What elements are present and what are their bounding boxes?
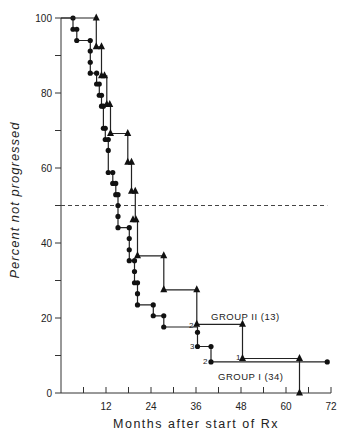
circle-marker xyxy=(103,126,108,131)
circle-marker xyxy=(115,214,120,219)
x-axis-title: Months after start of Rx xyxy=(113,417,279,431)
triangle-marker xyxy=(296,354,303,361)
circle-marker xyxy=(135,291,140,296)
y-tick-label: 40 xyxy=(41,238,53,249)
circle-marker xyxy=(115,225,120,230)
axes: 020406080100122436486072 xyxy=(35,13,337,413)
circle-marker xyxy=(88,48,93,53)
triangle-marker xyxy=(193,320,200,327)
circle-marker xyxy=(74,38,79,43)
triangle-marker xyxy=(193,285,200,292)
circle-marker xyxy=(106,137,111,142)
x-tick-label: 72 xyxy=(325,401,337,412)
circle-marker xyxy=(106,170,111,175)
y-axis-title: Percent not progressed xyxy=(7,121,22,278)
circle-marker xyxy=(195,330,200,335)
circle-marker xyxy=(115,192,120,197)
censor-count-3: 3 xyxy=(190,342,195,351)
circle-marker xyxy=(127,247,132,252)
circle-marker xyxy=(325,359,330,364)
x-tick-label: 48 xyxy=(235,401,247,412)
triangle-marker xyxy=(93,13,100,20)
censor-count-2: 2 xyxy=(189,321,194,330)
circle-marker xyxy=(135,280,140,285)
circle-marker xyxy=(151,313,156,318)
survival-curves xyxy=(61,13,330,395)
circle-marker xyxy=(106,148,111,153)
circle-marker xyxy=(110,170,115,175)
circle-marker xyxy=(132,269,137,274)
circle-marker xyxy=(88,38,93,43)
circle-marker xyxy=(94,71,99,76)
censor-count-1: 1 xyxy=(236,353,241,362)
group-ii-label: GROUP II (13) xyxy=(211,311,280,322)
circle-marker xyxy=(132,258,137,263)
circle-marker xyxy=(88,60,93,65)
y-tick-label: 20 xyxy=(41,313,53,324)
triangle-marker xyxy=(124,129,131,136)
circle-marker xyxy=(208,344,213,349)
circle-marker xyxy=(88,71,93,76)
y-tick-label: 0 xyxy=(46,388,52,399)
circle-marker xyxy=(115,203,120,208)
x-tick-label: 12 xyxy=(100,401,112,412)
circle-marker xyxy=(113,181,118,186)
triangle-marker xyxy=(107,129,114,136)
y-tick-label: 80 xyxy=(41,88,53,99)
triangle-marker xyxy=(296,388,303,395)
triangle-marker xyxy=(98,42,105,49)
circle-marker xyxy=(127,236,132,241)
circle-marker xyxy=(74,27,79,32)
circle-marker xyxy=(127,258,132,263)
x-tick-label: 60 xyxy=(280,401,292,412)
circle-marker xyxy=(127,225,132,230)
circle-marker xyxy=(135,302,140,307)
group-i-label: GROUP I (34) xyxy=(218,371,283,382)
y-tick-label: 100 xyxy=(35,13,52,24)
censor-count-2b: 2 xyxy=(203,357,208,366)
circle-marker xyxy=(97,81,102,86)
y-tick-label: 60 xyxy=(41,163,53,174)
circle-marker xyxy=(161,313,166,318)
circle-marker xyxy=(151,302,156,307)
kaplan-meier-chart: 020406080100122436486072 GROUP II (13) G… xyxy=(0,0,349,442)
triangle-marker xyxy=(134,251,141,258)
triangle-marker xyxy=(160,251,167,258)
circle-marker xyxy=(195,344,200,349)
circle-marker xyxy=(208,359,213,364)
circle-marker xyxy=(99,93,104,98)
circle-marker xyxy=(161,324,166,329)
x-tick-label: 24 xyxy=(145,401,157,412)
x-tick-label: 36 xyxy=(190,401,202,412)
triangle-marker xyxy=(160,285,167,292)
